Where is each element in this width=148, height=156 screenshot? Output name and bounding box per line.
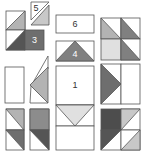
hst-top-left-upper	[6, 11, 25, 30]
hst-grid-top-right	[101, 18, 140, 60]
geese-left	[30, 56, 48, 103]
geese-right	[101, 64, 140, 104]
piece-4-label: 4	[72, 49, 77, 59]
rect-middle-left	[5, 67, 24, 103]
quilt-diagram: 3 5 6 4	[0, 0, 148, 156]
piece-1: 1	[56, 66, 94, 105]
piece-5: 5	[31, 2, 49, 25]
piece-5-label: 5	[33, 3, 38, 13]
piece-3: 3	[25, 30, 44, 50]
geese-bottom-middle	[56, 105, 94, 150]
piece-6-label: 6	[72, 19, 77, 29]
hst-top-left-lower	[6, 30, 25, 50]
piece-6: 6	[56, 15, 94, 33]
piece-4: 4	[56, 41, 94, 61]
piece-3-label: 3	[32, 35, 37, 45]
piece-1-label: 1	[72, 80, 77, 90]
hst-bottom-second	[30, 109, 49, 150]
hst-bottom-left	[6, 109, 24, 150]
hst-grid-bottom-right	[101, 109, 140, 150]
